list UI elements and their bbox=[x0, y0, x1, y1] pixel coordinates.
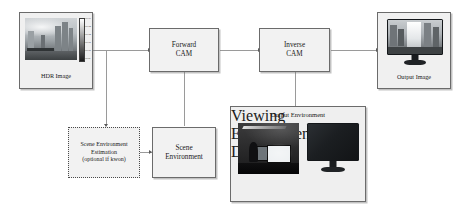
hdr-photograph-icon bbox=[25, 18, 77, 60]
colorbar-tick: 1.0e+00 bbox=[84, 50, 91, 52]
viewing-environment-photo-icon bbox=[238, 123, 299, 174]
display-monitor-icon bbox=[307, 123, 359, 175]
inverse-cam-box[interactable]: Inverse CAM bbox=[259, 28, 330, 72]
colorbar-tick: 1.0e+03 bbox=[84, 26, 91, 28]
hdr-image-panel[interactable]: 1.0e+04 1.0e+03 1.0e+02 1.0e+01 1.0e+00 … bbox=[19, 12, 93, 89]
colorbar-tick: 1.0e+01 bbox=[84, 42, 91, 44]
colorbar-tick: 1.0e+04 bbox=[84, 18, 91, 20]
colorbar-tick: 1.0e+02 bbox=[84, 34, 91, 36]
edge-hdr-branch-vertical bbox=[106, 50, 107, 125]
scene-environment-label: Scene Environment bbox=[163, 144, 205, 162]
scene-environment-box[interactable]: Scene Environment bbox=[152, 127, 216, 178]
hdr-image-label: HDR Image bbox=[20, 72, 92, 79]
output-image-label: Output Image bbox=[378, 73, 450, 80]
edge-inverse-cam-to-output-image bbox=[331, 50, 377, 51]
output-environment-title: Output Environment bbox=[231, 111, 365, 118]
edge-scene-environment-to-forward-cam bbox=[184, 72, 185, 126]
output-monitor-icon bbox=[387, 19, 443, 67]
edge-hdr-to-forward-cam bbox=[93, 50, 149, 51]
diagram-canvas: 1.0e+04 1.0e+03 1.0e+02 1.0e+01 1.0e+00 … bbox=[0, 0, 465, 212]
forward-cam-box[interactable]: Forward CAM bbox=[149, 28, 219, 72]
scene-environment-estimation-box[interactable]: Scene Environment Estimation (optional i… bbox=[68, 127, 140, 178]
output-image-panel[interactable]: Output Image bbox=[377, 12, 451, 89]
inverse-cam-label: Inverse CAM bbox=[282, 41, 307, 59]
scene-environment-estimation-label: Scene Environment Estimation (optional i… bbox=[78, 141, 129, 164]
output-environment-group[interactable]: Output Environment Viewing Environment D… bbox=[230, 106, 366, 202]
edge-output-environment-to-inverse-cam bbox=[295, 72, 296, 107]
hdr-colorbar-ticks: 1.0e+04 1.0e+03 1.0e+02 1.0e+01 1.0e+00 … bbox=[84, 18, 91, 60]
forward-cam-label: Forward CAM bbox=[170, 41, 198, 59]
edge-forward-cam-to-inverse-cam bbox=[220, 50, 259, 51]
colorbar-tick: 1.0e-01 bbox=[84, 58, 91, 60]
